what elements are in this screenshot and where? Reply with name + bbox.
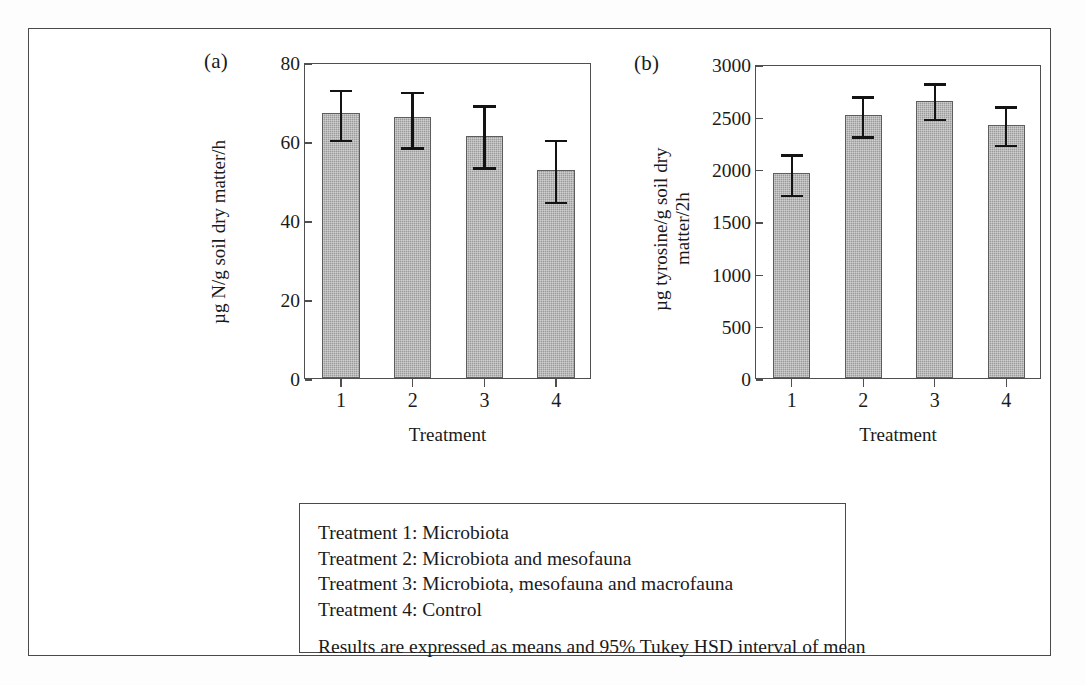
panel-b-error-bar-4 — [995, 106, 1017, 147]
panel-b-error-stem-2 — [862, 96, 864, 138]
panel-a-error-bar-2 — [401, 92, 423, 150]
figure-outer-frame: (a) µg N/g soil dry matter/h 02040608012… — [28, 28, 1051, 656]
panel-b-y-tick-mark-2 — [756, 275, 763, 276]
panel-a-bar-3 — [466, 136, 503, 378]
panel-b-y-tick-label-3: 1500 — [712, 213, 756, 233]
panel-b-error-cap-top-3 — [924, 83, 946, 86]
panel-a-error-cap-bottom-2 — [401, 147, 423, 150]
panel-a-y-tick-mark-0 — [305, 379, 312, 380]
panel-b-y-tick-label-4: 2000 — [712, 160, 756, 180]
panel-b-x-tick-label-1: 2 — [843, 389, 883, 412]
panel-a-plot-area: 0204060801234 — [304, 63, 591, 379]
legend-note: Results are expressed as means and 95% T… — [318, 634, 845, 660]
panel-b-y-tick-mark-3 — [756, 222, 763, 223]
panel-a-error-stem-3 — [483, 105, 485, 169]
panel-b-error-cap-bottom-1 — [781, 195, 803, 198]
panel-b-error-cap-top-2 — [852, 96, 874, 99]
panel-a-y-tick-mark-2 — [305, 221, 312, 222]
panel-a-x-axis-title: Treatment — [304, 424, 591, 446]
panel-b-y-tick-label-6: 3000 — [712, 56, 756, 76]
panel-b-y-tick-mark-5 — [756, 118, 763, 119]
panel-a-error-cap-bottom-3 — [473, 167, 495, 170]
panel-b-x-tick-mark-3 — [1006, 378, 1007, 387]
panel-b-label: (b) — [634, 51, 659, 76]
panel-a-bar-1 — [322, 113, 359, 378]
panel-b-x-tick-label-3: 4 — [986, 389, 1026, 412]
panel-a-x-tick-label-3: 4 — [536, 389, 576, 412]
panel-a-x-tick-label-2: 3 — [464, 389, 504, 412]
panel-b-bar-1 — [773, 173, 810, 378]
panel-b-error-cap-bottom-2 — [852, 136, 874, 139]
panel-b-y-tick-label-5: 2500 — [712, 108, 756, 128]
panel-b-bar-2 — [845, 115, 882, 378]
panel-a-y-tick-label-0: 0 — [290, 370, 305, 390]
panel-a-x-tick-label-1: 2 — [393, 389, 433, 412]
panel-b-y-tick-label-2: 1000 — [712, 265, 756, 285]
panel-a-y-tick-mark-3 — [305, 142, 312, 143]
panel-b-error-stem-4 — [1005, 106, 1007, 147]
legend-line-treatment-3: Treatment 3: Microbiota, mesofauna and m… — [318, 571, 845, 597]
legend-line-treatment-4: Treatment 4: Control — [318, 597, 845, 623]
panel-a-error-cap-top-2 — [401, 92, 423, 95]
legend-box: Treatment 1: Microbiota Treatment 2: Mic… — [299, 503, 846, 653]
panel-b-plot-area: 0500100015002000250030001234 — [755, 65, 1041, 379]
panel-b-bar-3 — [916, 101, 953, 378]
panel-b-y-axis-title-line1: µg tyrosine/g soil dry — [650, 147, 671, 310]
panel-b-error-cap-top-4 — [995, 106, 1017, 109]
panel-a-y-tick-mark-4 — [305, 63, 312, 64]
panel-b-x-tick-mark-0 — [791, 378, 792, 387]
panel-b-y-tick-mark-4 — [756, 170, 763, 171]
panel-a-error-cap-bottom-4 — [545, 202, 567, 205]
panel-b-y-axis-title: µg tyrosine/g soil dry matter/2h — [650, 79, 698, 379]
panel-a-error-stem-4 — [555, 140, 557, 204]
panel-b-y-tick-mark-6 — [756, 65, 763, 66]
panel-a-y-tick-mark-1 — [305, 300, 312, 301]
panel-a-label: (a) — [204, 49, 228, 74]
panel-a-y-tick-label-2: 40 — [281, 212, 306, 232]
panel-a-bar-2 — [394, 117, 431, 378]
legend-line-treatment-1: Treatment 1: Microbiota — [318, 520, 845, 546]
panel-b-y-tick-mark-0 — [756, 379, 763, 380]
panel-b-x-tick-mark-2 — [934, 378, 935, 387]
panel-a-y-axis-title: µg N/g soil dry matter/h — [208, 87, 230, 377]
panel-a-error-bar-1 — [330, 90, 352, 143]
panel-b-x-tick-label-0: 1 — [772, 389, 812, 412]
panel-b-error-bar-1 — [781, 154, 803, 197]
panel-a-error-stem-1 — [340, 90, 342, 143]
panel-b-y-tick-label-0: 0 — [741, 370, 756, 390]
panel-a-error-cap-top-3 — [473, 105, 495, 108]
panel-b-bar-4 — [988, 125, 1025, 378]
panel-b-error-cap-top-1 — [781, 154, 803, 157]
chart-panel-a: (a) µg N/g soil dry matter/h 02040608012… — [204, 29, 604, 479]
panel-b-x-axis-title: Treatment — [755, 424, 1041, 446]
legend-spacer — [318, 622, 845, 634]
panel-b-error-bar-3 — [924, 83, 946, 121]
panel-b-error-stem-3 — [934, 83, 936, 121]
panel-b-x-tick-label-2: 3 — [915, 389, 955, 412]
chart-panel-b: (b) µg tyrosine/g soil dry matter/2h 050… — [634, 29, 1054, 479]
panel-a-x-tick-label-0: 1 — [321, 389, 361, 412]
panel-b-error-bar-2 — [852, 96, 874, 138]
panel-b-y-tick-mark-1 — [756, 327, 763, 328]
panel-b-y-tick-label-1: 500 — [722, 317, 756, 337]
panel-a-error-stem-2 — [411, 92, 413, 150]
panel-a-y-tick-label-1: 20 — [281, 291, 306, 311]
panel-a-error-bar-3 — [473, 105, 495, 169]
panel-a-x-tick-mark-2 — [484, 378, 485, 387]
panel-a-error-cap-top-1 — [330, 90, 352, 93]
figure-root: (a) µg N/g soil dry matter/h 02040608012… — [0, 0, 1086, 685]
panel-a-error-bar-4 — [545, 140, 567, 204]
panel-a-x-tick-mark-1 — [412, 378, 413, 387]
panel-b-error-stem-1 — [791, 154, 793, 197]
panel-a-error-cap-bottom-1 — [330, 140, 352, 143]
legend-line-treatment-2: Treatment 2: Microbiota and mesofauna — [318, 546, 845, 572]
panel-b-error-cap-bottom-4 — [995, 145, 1017, 148]
panel-b-y-axis-title-line2: matter/2h — [672, 193, 693, 266]
panel-a-y-tick-label-4: 80 — [281, 54, 306, 74]
panel-b-x-tick-mark-1 — [863, 378, 864, 387]
panel-b-error-cap-bottom-3 — [924, 119, 946, 122]
panel-a-error-cap-top-4 — [545, 140, 567, 143]
panel-a-x-tick-mark-0 — [340, 378, 341, 387]
panel-a-y-tick-label-3: 60 — [281, 133, 306, 153]
panel-a-x-tick-mark-3 — [555, 378, 556, 387]
